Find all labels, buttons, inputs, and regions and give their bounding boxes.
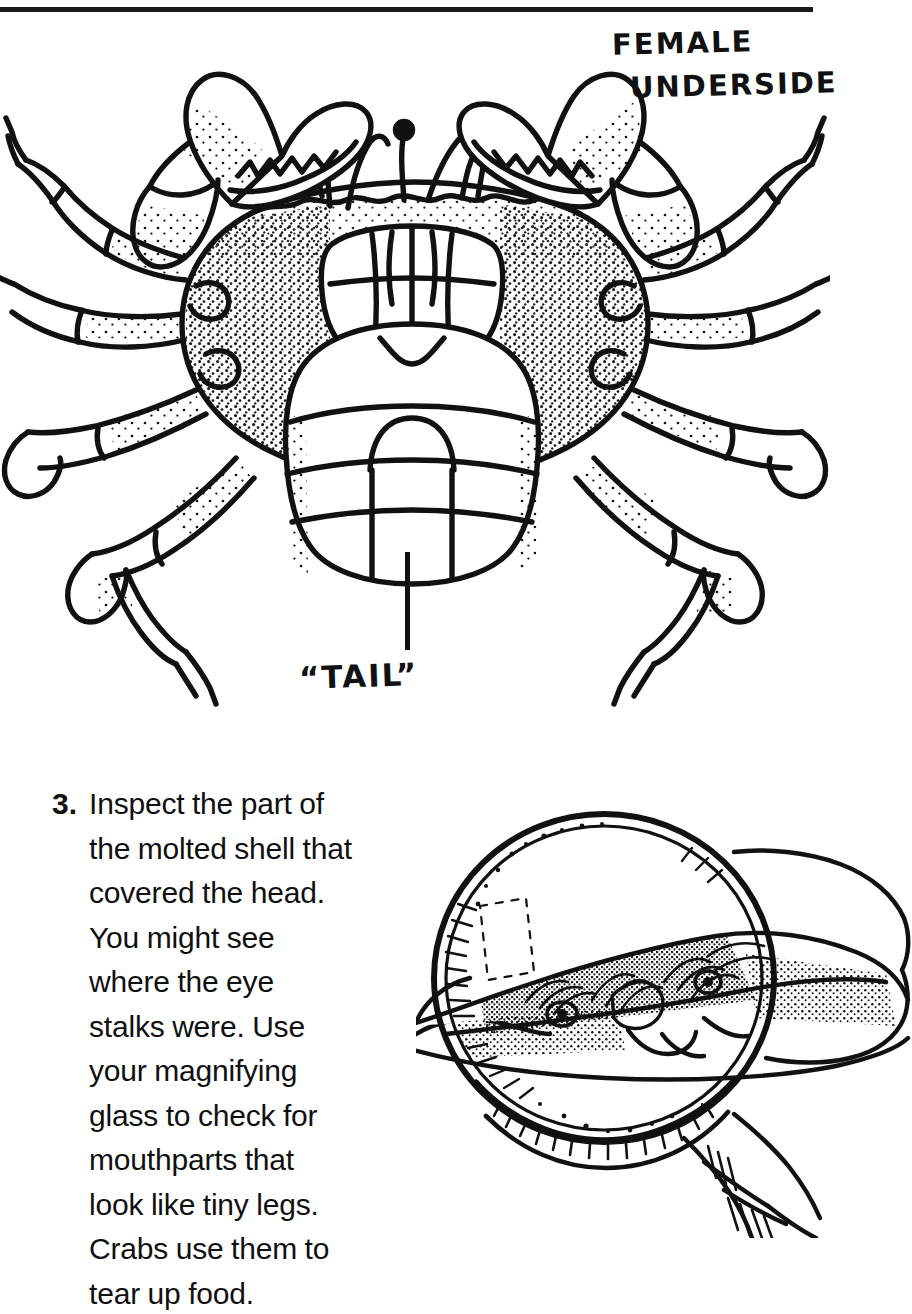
- step-number: 3.: [52, 782, 89, 826]
- instruction-step-3: 3. Inspect the part of the molted shell …: [52, 782, 352, 1314]
- figure-label-underside: UNDERSIDE: [630, 65, 838, 104]
- tail-leader-line: [405, 552, 410, 650]
- step-body-text: Inspect the part of the molted shell tha…: [89, 782, 352, 1314]
- figure-label-female: FEMALE: [612, 24, 754, 62]
- magnifying-glass-illustration: [416, 786, 912, 1238]
- horizontal-rule: [0, 7, 813, 12]
- magnifier-over-shell-drawing: [416, 786, 912, 1238]
- figure-label-tail: “TAIL”: [298, 656, 419, 696]
